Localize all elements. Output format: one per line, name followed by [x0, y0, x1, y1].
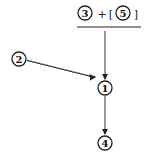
- plus-operator: +: [97, 8, 106, 21]
- node-4: 4: [98, 136, 112, 150]
- node-3-label: 3: [82, 8, 89, 19]
- diagram-canvas: 3 + [ 5 ] 2 1 4: [0, 0, 151, 166]
- node-2-label: 2: [16, 54, 23, 65]
- close-bracket: ]: [134, 8, 138, 21]
- node-5: 5: [116, 6, 130, 20]
- node-2: 2: [12, 52, 26, 66]
- edge-2-to-1-wavy: [27, 60, 95, 77]
- expression-group: 3 + [ 5 ]: [77, 6, 141, 27]
- open-bracket: [: [109, 8, 113, 21]
- node-1: 1: [98, 81, 112, 95]
- node-5-label: 5: [120, 8, 127, 19]
- node-3: 3: [78, 6, 92, 20]
- node-1-label: 1: [102, 83, 109, 94]
- node-4-label: 4: [102, 138, 109, 149]
